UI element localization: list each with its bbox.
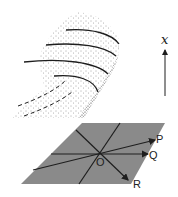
label-origin: O — [96, 156, 105, 168]
label-p: P — [156, 133, 163, 145]
x-axis-label: x — [161, 32, 169, 47]
diagram-canvas: x O P Q R — [0, 0, 178, 197]
x-axis-arrow: x — [161, 32, 169, 96]
label-q: Q — [149, 149, 158, 161]
plane: O P Q R — [21, 123, 165, 190]
label-r: R — [133, 178, 141, 190]
